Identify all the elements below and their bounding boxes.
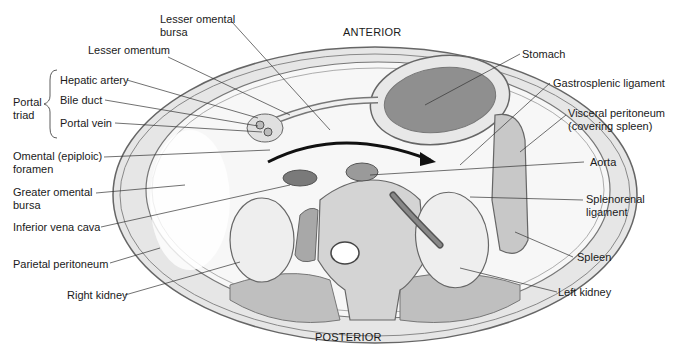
label-lesser-omental-bursa: Lesser omental bursa <box>160 13 235 39</box>
label-gastrosplenic-ligament: Gastrosplenic ligament <box>553 77 665 90</box>
label-inferior-vena-cava: Inferior vena cava <box>13 221 100 234</box>
label-visceral-peritoneum: Visceral peritoneum (covering spleen) <box>568 107 665 133</box>
label-stomach: Stomach <box>522 48 565 61</box>
posterior-label: POSTERIOR <box>315 331 382 343</box>
inferior-vena-cava <box>283 170 317 186</box>
label-portal-vein: Portal vein <box>60 117 112 130</box>
right-kidney <box>230 198 294 282</box>
portal-triad-label: Portal triad <box>13 96 42 122</box>
spinal-cord <box>331 242 359 264</box>
label-omental-foramen: Omental (epiploic) foramen <box>13 150 102 176</box>
portal-triad <box>247 114 283 142</box>
spleen <box>492 114 528 253</box>
aorta <box>346 163 378 181</box>
label-bile-duct: Bile duct <box>60 94 102 107</box>
label-greater-omental-bursa: Greater omental bursa <box>13 186 92 212</box>
label-lesser-omentum: Lesser omentum <box>88 44 170 57</box>
anterior-label: ANTERIOR <box>343 26 401 38</box>
label-spleen: Spleen <box>577 251 611 264</box>
label-right-kidney: Right kidney <box>67 289 128 302</box>
label-hepatic-artery: Hepatic artery <box>60 74 128 87</box>
label-aorta: Aorta <box>590 156 616 169</box>
label-left-kidney: Left kidney <box>558 286 611 299</box>
label-parietal-peritoneum: Parietal peritoneum <box>13 258 108 271</box>
label-splenorenal-ligament: Splenorenal ligament <box>586 193 645 219</box>
